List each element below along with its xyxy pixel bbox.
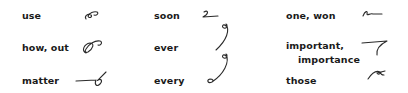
word-label: matter bbox=[22, 75, 59, 86]
word-label: soon bbox=[154, 10, 180, 21]
word-label: those bbox=[286, 75, 316, 86]
word-label: important, bbox=[286, 40, 344, 51]
how-out-outline-icon bbox=[80, 35, 106, 57]
ever-outline-icon bbox=[212, 20, 232, 52]
word-label: every bbox=[154, 75, 184, 86]
word-label: ever bbox=[154, 42, 178, 53]
every-outline-icon bbox=[204, 50, 234, 86]
those-outline-icon bbox=[366, 66, 390, 82]
word-label-continuation: importance bbox=[298, 54, 360, 65]
word-label: how, out bbox=[22, 42, 69, 53]
soon-outline-icon bbox=[200, 8, 222, 20]
word-label: use bbox=[22, 10, 41, 21]
one-won-outline-icon bbox=[361, 8, 385, 20]
important-importance-outline-icon bbox=[360, 37, 392, 59]
matter-outline-icon bbox=[74, 68, 112, 90]
use-outline-icon bbox=[82, 8, 102, 22]
word-label: one, won bbox=[286, 10, 336, 21]
